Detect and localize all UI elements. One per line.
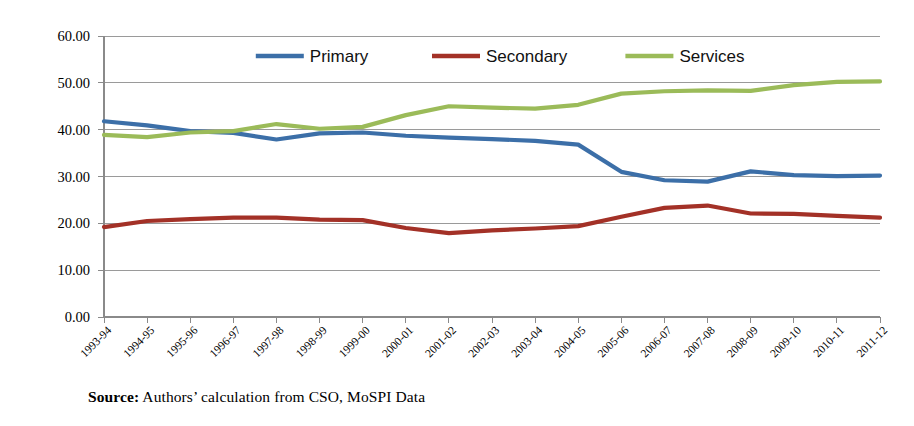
- source-label: Source:: [88, 388, 139, 405]
- x-axis-tick-label: 1997-98: [250, 324, 286, 360]
- x-axis-tick-label: 2009-10: [768, 324, 804, 360]
- y-axis-tick-label: 60.00: [57, 28, 90, 44]
- y-axis-tick-label: 30.00: [57, 169, 90, 185]
- y-axis-tick-label: 10.00: [57, 262, 90, 278]
- x-axis-tick-label: 2007-08: [681, 324, 717, 360]
- x-axis-tick-label: 2002-03: [466, 324, 502, 360]
- x-axis-tick-label: 2000-01: [380, 324, 416, 360]
- gridlines-group: [98, 36, 880, 317]
- x-axis-tick-label: 1996-97: [207, 324, 243, 360]
- y-axis-tick-label: 20.00: [57, 215, 90, 231]
- x-axis-tick-label: 1998-99: [293, 324, 329, 360]
- line-chart: 0.0010.0020.0030.0040.0050.0060.00 1993-…: [0, 0, 914, 385]
- x-axis-tick-marks: [104, 317, 880, 323]
- x-axis-tick-label: 2010-11: [811, 324, 846, 359]
- chart-legend: PrimarySecondaryServices: [256, 47, 745, 66]
- y-axis-tick-label: 0.00: [65, 309, 90, 325]
- y-axis-tick-label: 50.00: [57, 75, 90, 91]
- data-series-group: [104, 81, 880, 233]
- y-axis-tick-label: 40.00: [57, 122, 90, 138]
- y-axis-tick-labels: 0.0010.0020.0030.0040.0050.0060.00: [57, 28, 90, 325]
- x-axis-tick-label: 2001-02: [423, 324, 459, 360]
- x-axis-tick-label: 2011-12: [854, 324, 889, 359]
- series-line-services: [104, 81, 880, 137]
- legend-label-services: Services: [679, 47, 744, 66]
- source-text: Authors’ calculation from CSO, MoSPI Dat…: [139, 388, 425, 405]
- source-note: Source: Authors’ calculation from CSO, M…: [88, 388, 425, 406]
- x-axis-tick-labels: 1993-941994-951995-961996-971997-981998-…: [78, 324, 890, 360]
- x-axis-tick-label: 2006-07: [638, 324, 674, 360]
- x-axis-tick-label: 2004-05: [552, 324, 588, 360]
- x-axis-tick-label: 1999-00: [336, 324, 372, 360]
- figure-container: 0.0010.0020.0030.0040.0050.0060.00 1993-…: [0, 0, 914, 426]
- x-axis-tick-label: 1995-96: [164, 324, 200, 360]
- x-axis-tick-label: 2008-09: [724, 324, 760, 360]
- x-axis-tick-label: 1993-94: [78, 324, 114, 360]
- series-line-secondary: [104, 206, 880, 234]
- x-axis-tick-label: 2005-06: [595, 324, 631, 360]
- chart-plot-area: 0.0010.0020.0030.0040.0050.0060.00 1993-…: [0, 0, 914, 385]
- x-axis-tick-label: 2003-04: [509, 324, 545, 360]
- legend-label-primary: Primary: [310, 47, 369, 66]
- legend-label-secondary: Secondary: [486, 47, 568, 66]
- x-axis-tick-label: 1994-95: [121, 324, 157, 360]
